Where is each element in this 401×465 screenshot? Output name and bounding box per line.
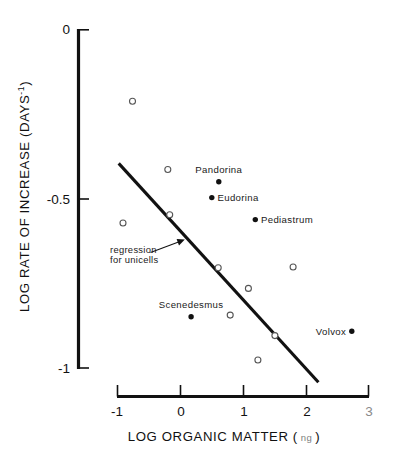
y-ticklabel-neg0-5: -0.5 bbox=[47, 192, 70, 207]
data-point-open bbox=[290, 264, 296, 270]
x-ticklabel-2: 2 bbox=[303, 404, 311, 419]
point-label-pediastrum: Pediastrum bbox=[261, 214, 313, 225]
data-point-filled-scenedesmus bbox=[188, 314, 193, 319]
unicell-points bbox=[120, 98, 296, 363]
scatter-chart-figure: 0 -0.5 -1 -1 0 1 2 3 LOG RATE OF INCREAS… bbox=[0, 0, 401, 465]
y-axis-title-close: ) bbox=[17, 81, 32, 86]
x-ticklabel-0: 0 bbox=[177, 404, 185, 419]
y-axis-title: LOG RATE OF INCREASE (DAYS-1) bbox=[16, 81, 32, 312]
regression-annotation: regression for unicells bbox=[110, 239, 185, 265]
colonial-points: Pandorina Eudorina Pediastrum Scenedesmu… bbox=[159, 164, 355, 337]
data-point-open bbox=[167, 212, 173, 218]
data-point-open bbox=[255, 357, 261, 363]
data-point-open bbox=[165, 167, 171, 173]
point-label-scenedesmus: Scenedesmus bbox=[159, 299, 224, 310]
x-axis-title-unit: ng bbox=[301, 432, 312, 443]
data-point-open bbox=[227, 312, 233, 318]
data-point-filled-volvox bbox=[349, 329, 354, 334]
y-axis-title-superscript: -1 bbox=[16, 86, 26, 95]
data-point-open bbox=[215, 265, 221, 271]
x-ticklabel-3: 3 bbox=[365, 404, 373, 419]
annotation-arrowhead-icon bbox=[177, 239, 185, 245]
data-point-filled-pandorina bbox=[216, 179, 221, 184]
data-point-filled-eudorina bbox=[209, 195, 214, 200]
point-label-eudorina: Eudorina bbox=[218, 192, 260, 203]
point-label-pandorina: Pandorina bbox=[195, 164, 242, 175]
y-ticklabel-0: 0 bbox=[62, 22, 70, 37]
x-ticklabel-1: 1 bbox=[240, 404, 248, 419]
x-axis-title-main: LOG ORGANIC MATTER ( bbox=[128, 429, 298, 444]
x-axis: -1 0 1 2 3 bbox=[111, 385, 373, 419]
point-label-volvox: Volvox bbox=[316, 326, 346, 337]
y-ticklabel-neg1: -1 bbox=[58, 361, 70, 376]
x-axis-title: LOG ORGANIC MATTER (ng) bbox=[128, 429, 320, 444]
x-axis-title-close: ) bbox=[315, 429, 320, 444]
svg-text:LOG RATE OF INCREASE (DAYS-1): LOG RATE OF INCREASE (DAYS-1) bbox=[16, 81, 32, 312]
annotation-text-line2: for unicells bbox=[110, 254, 158, 265]
x-ticklabel-neg1: -1 bbox=[111, 404, 123, 419]
data-point-open bbox=[120, 220, 126, 226]
y-axis-title-main: LOG RATE OF INCREASE (DAYS bbox=[17, 95, 32, 312]
data-point-open bbox=[245, 285, 251, 291]
data-point-open bbox=[130, 98, 136, 104]
svg-text:LOG ORGANIC MATTER (ng): LOG ORGANIC MATTER (ng) bbox=[128, 429, 320, 444]
chart-canvas: 0 -0.5 -1 -1 0 1 2 3 LOG RATE OF INCREAS… bbox=[0, 0, 401, 465]
data-point-filled-pediastrum bbox=[253, 217, 258, 222]
y-axis: 0 -0.5 -1 bbox=[47, 22, 89, 376]
data-point-open bbox=[272, 333, 278, 339]
